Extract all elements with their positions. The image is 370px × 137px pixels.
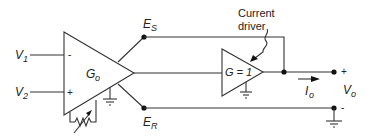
driver-caption-line2: driver [238, 20, 266, 32]
driver-caption-line1: Current [238, 7, 275, 19]
output-plus-terminal-dot [331, 69, 336, 74]
noninverting-input-sign: + [67, 87, 73, 98]
current-arrow-icon [311, 76, 320, 82]
es-subscript: S [151, 23, 157, 33]
output-ground-icon [326, 108, 342, 127]
inverting-input-sign: - [68, 49, 71, 60]
driver-pointer-squiggle [255, 29, 268, 58]
v1-subscript: 1 [23, 54, 28, 64]
main-gain-label: G [86, 67, 95, 81]
sense-lead [118, 37, 144, 62]
v2-subscript: 2 [22, 91, 28, 101]
reference-lead [118, 84, 144, 108]
input-v1: V 1 [15, 48, 64, 64]
main-gain-subscript: o [95, 73, 100, 83]
output-plus-sign: + [341, 66, 347, 77]
gain-resistor-left-lead [70, 112, 75, 122]
variable-resistor-icon [75, 100, 96, 126]
output: I o + - V o [263, 66, 356, 127]
circuit-diagram: G o - + V 1 V 2 E S E R [0, 0, 370, 137]
main-amplifier: G o - + [64, 32, 134, 115]
reference-terminal: E R [118, 84, 334, 131]
vo-subscript: o [351, 89, 356, 99]
io-subscript: o [309, 90, 314, 100]
input-v2: V 2 [15, 85, 64, 101]
gain-resistor [70, 100, 96, 133]
er-subscript: R [151, 121, 158, 131]
variable-resistor-arrowhead-icon [86, 110, 92, 116]
output-minus-sign: - [341, 102, 344, 113]
current-driver: G = 1 Current driver [222, 7, 275, 98]
feedback-node-dot [281, 69, 286, 74]
driver-gain-label: G = 1 [225, 66, 252, 78]
sense-feedback-wire [144, 37, 284, 72]
